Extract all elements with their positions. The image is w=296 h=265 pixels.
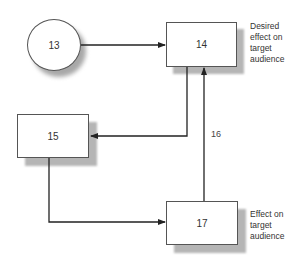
annotation-effect: Effect on target audience [250, 209, 294, 242]
node-13: 13 [27, 19, 81, 71]
node-17: 17 [166, 201, 238, 245]
node-14: 14 [166, 22, 237, 67]
node-17-label: 17 [196, 218, 207, 229]
node-15: 15 [17, 114, 89, 158]
edge-14-to-15 [91, 67, 187, 136]
annotation-desired-effect: Desired effect on target audience [250, 21, 294, 65]
node-14-label: 14 [196, 39, 207, 50]
edge-15-to-17 [49, 158, 165, 222]
edge-label-16: 16 [211, 129, 221, 139]
node-13-label: 13 [48, 40, 59, 51]
diagram-canvas: 13 14 15 17 16 Desired effect on target … [0, 0, 296, 265]
node-15-label: 15 [47, 131, 58, 142]
